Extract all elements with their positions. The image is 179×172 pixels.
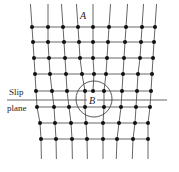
atom-dot: [76, 25, 80, 29]
atom-dot: [122, 56, 126, 60]
atom-dot: [124, 25, 128, 29]
label-b: B: [89, 95, 95, 106]
atom-dot: [91, 56, 95, 60]
atom-dot: [39, 137, 43, 141]
atom-dot: [38, 121, 42, 125]
atom-dot: [104, 72, 108, 76]
atom-dot: [35, 105, 39, 109]
atom-dot: [47, 56, 51, 60]
atom-dot: [32, 56, 36, 60]
label-plane: plane: [7, 103, 27, 113]
atom-dot: [115, 137, 119, 141]
atom-dot: [120, 89, 124, 93]
atom-dot: [63, 56, 67, 60]
atom-dot: [101, 121, 105, 125]
atom-dot: [138, 56, 142, 60]
atom-dot: [61, 25, 65, 29]
atom-dot: [77, 40, 81, 44]
atom-dot: [105, 56, 109, 60]
atom-dot: [146, 121, 150, 125]
atom-dot: [53, 121, 57, 125]
atom-dot: [84, 121, 88, 125]
label-slip: Slip: [9, 87, 24, 97]
atom-dot: [150, 72, 154, 76]
atom-dot: [67, 105, 71, 109]
atom-dot: [48, 72, 52, 76]
atom-dot: [148, 105, 152, 109]
atom-dot: [102, 89, 106, 93]
dislocation-diagram: A B Slip plane: [0, 0, 179, 172]
atom-dot: [151, 56, 155, 60]
atom-dot: [85, 137, 89, 141]
atom-dot: [65, 89, 69, 93]
atom-dot: [30, 25, 34, 29]
atom-dot: [83, 89, 87, 93]
atom-dot: [119, 105, 123, 109]
atom-dot: [91, 89, 95, 93]
atom-dot: [152, 40, 156, 44]
atom-dot: [107, 25, 111, 29]
atom-dot: [52, 105, 56, 109]
atom-dot: [139, 40, 143, 44]
atom-dot: [69, 121, 73, 125]
atom-dot: [70, 137, 74, 141]
atom-dot: [117, 121, 121, 125]
atom-dot: [91, 25, 95, 29]
atom-dot: [80, 72, 84, 76]
atom-dot: [78, 56, 82, 60]
lattice-column-line: [93, 4, 94, 91]
atom-dot: [83, 105, 87, 109]
atom-dot: [131, 137, 135, 141]
atom-dot: [31, 40, 35, 44]
atom-dot: [121, 72, 125, 76]
atom-dot: [140, 25, 144, 29]
atom-dot: [134, 105, 138, 109]
atom-dot: [135, 89, 139, 93]
atom-dot: [54, 137, 58, 141]
atom-dot: [62, 40, 66, 44]
atom-dot: [34, 89, 38, 93]
atom-dot: [123, 40, 127, 44]
atom-dot: [46, 40, 50, 44]
atom-dot: [146, 137, 150, 141]
atom-dot: [50, 89, 54, 93]
atom-dot: [149, 89, 153, 93]
atom-dot: [33, 72, 37, 76]
atom-dot: [153, 25, 157, 29]
atom-dot: [133, 121, 137, 125]
atom-dot: [91, 40, 95, 44]
atom-dot: [101, 137, 105, 141]
atom-dot: [46, 25, 50, 29]
atom-dot: [106, 40, 110, 44]
atom-dot: [102, 105, 106, 109]
label-a: A: [79, 10, 87, 21]
atom-dot: [64, 72, 68, 76]
atom-dot: [136, 72, 140, 76]
atom-dot: [92, 72, 96, 76]
